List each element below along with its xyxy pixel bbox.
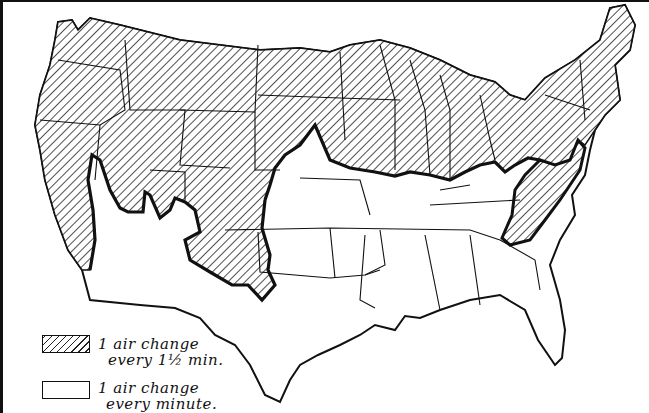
legend-label-line2: every 1½ min. [108,353,223,367]
legend-swatch-hatched [42,335,90,353]
legend-swatch-plain [42,381,90,399]
legend-label-line1: 1 air change [98,337,199,351]
legend-label-line1: 1 air change [98,381,199,395]
legend-label-line2: every minute. [106,397,217,411]
